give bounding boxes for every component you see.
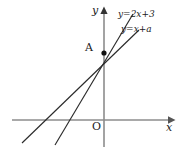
origin-label: O (92, 121, 101, 132)
x-axis-label: x (166, 122, 172, 133)
y-axis-arrowhead (100, 7, 107, 15)
line-y-x-a (22, 30, 139, 143)
equation-label-line-1: y=2x+3 (118, 10, 155, 19)
point-a-marker (101, 50, 106, 55)
equation-label-line-2: y=x+a (121, 25, 152, 34)
y-axis-label: y (92, 5, 98, 16)
point-a-label: A (85, 42, 93, 53)
figure-svg (0, 0, 179, 154)
math-figure-canvas: y x A O y=2x+3 y=x+a (0, 0, 179, 154)
